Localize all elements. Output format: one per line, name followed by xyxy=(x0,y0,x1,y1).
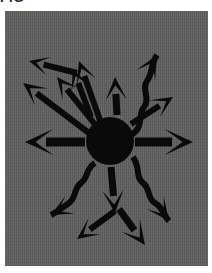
arrow-left-upper-short-shaft xyxy=(44,65,77,73)
arrow-left-bold xyxy=(25,129,85,155)
radial-arrows-svg xyxy=(5,11,208,266)
arrow-wavy-down-left xyxy=(51,163,95,215)
arrow-right-bold xyxy=(135,129,193,155)
arrow-down-left-shaft xyxy=(90,211,115,230)
clipped-caption-text: FIG xyxy=(0,0,60,4)
arrow-down-left xyxy=(77,211,115,239)
arrow-left-upper-short xyxy=(29,57,77,75)
arrow-down-center-shaft xyxy=(111,167,114,196)
diagram-panel xyxy=(5,11,208,266)
arrow-wavy-down-right xyxy=(133,157,169,221)
figure-root: FIG xyxy=(0,0,212,273)
arrow-wavy-down-right-shaft xyxy=(133,157,169,221)
arrow-down-center xyxy=(103,167,124,213)
arrow-up-short-shaft xyxy=(116,94,117,115)
central-node-circle xyxy=(86,117,134,165)
arrow-up-short xyxy=(106,77,127,115)
arrow-down-right-shaft xyxy=(119,209,134,230)
arrow-down-right xyxy=(119,209,145,245)
